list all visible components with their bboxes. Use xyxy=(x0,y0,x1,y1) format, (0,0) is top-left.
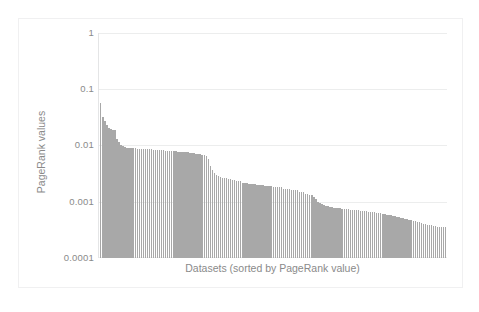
figure-canvas: 1 0.1 0.01 0.001 0.0001 PageRank values … xyxy=(0,0,479,312)
y-axis-title: PageRank values xyxy=(35,92,47,212)
y-axis-line xyxy=(98,33,99,258)
bar-series xyxy=(98,33,447,258)
y-tick-label-1: 1 xyxy=(24,28,94,38)
y-tick-label-0p0001: 0.0001 xyxy=(24,253,94,263)
y-axis-tick-labels: 1 0.1 0.01 0.001 0.0001 xyxy=(18,0,94,312)
x-axis-title: Datasets (sorted by PageRank value) xyxy=(98,262,447,274)
plot-area xyxy=(98,33,447,258)
bar xyxy=(445,227,446,258)
